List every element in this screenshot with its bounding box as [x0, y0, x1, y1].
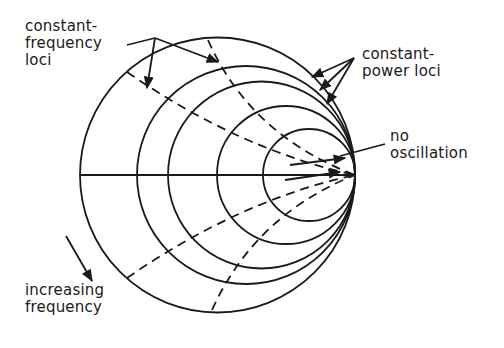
inner-arrow-1	[290, 158, 345, 165]
frequency-locus-lower-2	[212, 175, 355, 310]
label-increasing-frequency: increasing frequency	[25, 282, 104, 316]
increasing-frequency-arrow-icon	[66, 236, 92, 281]
frequency-locus-upper-2	[208, 40, 355, 175]
inner-arrow-2	[285, 172, 340, 180]
label-no-oscillation: no oscillation	[390, 128, 468, 162]
leader-arrow-frequency-1	[147, 38, 155, 88]
label-constant-power-loci: constant- power loci	[362, 46, 441, 80]
leader-line-frequency	[127, 38, 155, 45]
label-constant-frequency-loci: constant- frequency loci	[25, 18, 102, 69]
